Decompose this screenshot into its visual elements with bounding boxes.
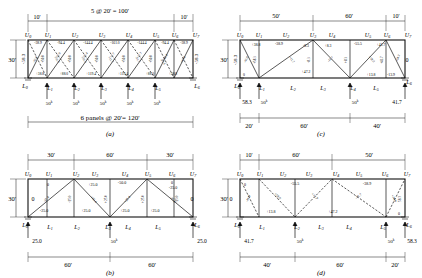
- svg-text:L4: L4: [345, 224, 351, 231]
- svg-text:+25.0: +25.0: [104, 195, 108, 203]
- panel-d-drawing: 10' 60' 50' 30' 40' 60' 20' U0 U1 U2 U3 …: [211, 139, 422, 278]
- svg-text:U0: U0: [25, 32, 31, 39]
- svg-text:+25.0: +25.0: [150, 208, 159, 213]
- zero-right-c: 0: [406, 57, 409, 63]
- svg-text:+59.0: +59.0: [274, 192, 283, 201]
- svg-text:L0: L0: [21, 222, 27, 229]
- zero-left-d: 0: [230, 196, 233, 202]
- svg-text:+88.0: +88.0: [146, 72, 155, 76]
- svg-text:+8.3: +8.3: [325, 44, 332, 48]
- dim-bot-b: 60': [300, 122, 308, 129]
- reaction-left-c: 58.3: [242, 99, 252, 105]
- svg-text:L2: L2: [293, 224, 299, 231]
- svg-text:-11.7: -11.7: [327, 55, 335, 63]
- svg-text:-38.9: -38.9: [275, 42, 283, 46]
- svg-text:U7: U7: [404, 171, 411, 178]
- svg-text:U1: U1: [45, 32, 51, 39]
- svg-text:-25.0: -25.0: [175, 195, 179, 202]
- svg-text:50k: 50k: [46, 100, 53, 106]
- svg-text:L6: L6: [193, 222, 199, 229]
- dim-b-a: 30': [47, 151, 55, 158]
- reaction-right-d: 58.3: [407, 238, 417, 244]
- svg-text:U6: U6: [172, 32, 178, 39]
- svg-text:+58.3: +58.3: [253, 56, 257, 64]
- dim-bot-d-c: 20': [391, 261, 399, 268]
- panel-d: 10' 60' 50' 30' 40' 60' 20' U0 U1 U2 U3 …: [211, 139, 422, 278]
- joint-labels-bottom: L0 L1 L2 L3 L4 L5 L6: [21, 83, 199, 92]
- svg-text:50k: 50k: [100, 100, 107, 106]
- svg-text:U4: U4: [122, 171, 128, 178]
- svg-text:-25.0: -25.0: [68, 195, 72, 202]
- member-end-left: -58.3: [21, 53, 26, 64]
- svg-text:U5: U5: [356, 171, 362, 178]
- joint-labels-top-b: U0 U1 U2 U3 U4 U5 U6 U7: [25, 171, 197, 178]
- svg-text:U7: U7: [405, 32, 412, 39]
- svg-text:+8.3: +8.3: [344, 57, 348, 63]
- svg-text:+50.0: +50.0: [122, 55, 126, 63]
- svg-text:-144.4: -144.4: [83, 41, 92, 45]
- svg-text:-38.9: -38.9: [363, 181, 371, 186]
- svg-text:U2: U2: [72, 32, 78, 39]
- member-end-right: -58.3: [194, 53, 199, 64]
- panel-a-caption: (a): [106, 130, 115, 138]
- svg-text:-161.0: -161.0: [110, 41, 119, 45]
- dim-bot-d-a: 40': [263, 261, 271, 268]
- svg-text:L6: L6: [193, 83, 199, 90]
- reaction-left-d: 41.7: [244, 238, 254, 244]
- svg-text:U3: U3: [92, 171, 98, 178]
- svg-text:U5: U5: [145, 171, 151, 178]
- svg-text:+65.0: +65.0: [180, 55, 187, 64]
- svg-text:+50.0: +50.0: [68, 55, 72, 63]
- svg-text:50k: 50k: [388, 238, 395, 244]
- dim-bot-d-b: 60': [336, 261, 344, 268]
- load-labels-d: 50k 50k: [297, 238, 395, 244]
- svg-text:+25.0: +25.0: [81, 208, 90, 213]
- svg-text:-58.3: -58.3: [395, 53, 401, 61]
- forces-d: 0 -55.5 -38.9 +13.8 +47.2: [244, 181, 371, 214]
- load-labels-c: 50k 50k: [261, 99, 359, 105]
- dim-b-c: 30': [166, 151, 174, 158]
- zero-left-b: 0: [32, 196, 35, 202]
- svg-text:0: 0: [244, 182, 246, 187]
- svg-text:50k: 50k: [154, 100, 161, 106]
- svg-text:50k: 50k: [352, 99, 359, 105]
- svg-text:L5: L5: [154, 224, 160, 231]
- svg-text:-55.5: -55.5: [291, 181, 299, 186]
- reaction-right-c: 41.7: [392, 99, 402, 105]
- svg-text:-144.4: -144.4: [137, 41, 146, 45]
- svg-text:L1: L1: [258, 224, 264, 231]
- svg-text:-11.7: -11.7: [354, 192, 362, 199]
- zero-right-b: 0: [191, 196, 194, 202]
- svg-text:+41.7: +41.7: [377, 43, 386, 47]
- svg-text:L4: L4: [124, 224, 130, 231]
- svg-text:L2: L2: [73, 224, 79, 231]
- dim-b: 60': [345, 12, 353, 19]
- svg-text:U6: U6: [382, 171, 388, 178]
- panel-b-caption: (b): [106, 269, 115, 277]
- svg-text:58.3: 58.3: [398, 196, 402, 202]
- dim-bot-a: 20': [245, 122, 253, 129]
- svg-text:-8.3: -8.3: [307, 57, 311, 62]
- svg-text:U0: U0: [237, 171, 243, 178]
- diagonal-forces: -65.0 -55.9 -35.4 -11.7 +11.7 +35.4 +65.…: [32, 51, 187, 66]
- dim-d-c: 50': [365, 151, 373, 158]
- svg-text:-50.0: -50.0: [118, 180, 126, 185]
- svg-text:0: 0: [243, 73, 245, 77]
- svg-text:+50.0: +50.0: [149, 55, 153, 63]
- svg-text:-13.9: -13.9: [387, 73, 395, 77]
- dim-span: 5 @ 20' = 100': [91, 7, 129, 14]
- svg-text:U4: U4: [329, 32, 335, 39]
- svg-text:+25.0: +25.0: [88, 182, 97, 187]
- dim-height: 30': [8, 56, 16, 63]
- panel-a: 10' 5 @ 20' = 100' 10' 30' 6 panels @ 20…: [0, 0, 211, 139]
- panel-b: 30' 60' 30' 30' 60' 60' U0 U1 U2 U3 U4 U…: [0, 139, 211, 278]
- forces-b: 0 +25.0 -50.0 0 -25.0 -25.0 +25.0 +25.0 …: [40, 180, 177, 213]
- svg-text:U3: U3: [306, 171, 312, 178]
- svg-text:U2: U2: [283, 32, 289, 39]
- svg-text:-25.0: -25.0: [40, 208, 48, 213]
- reaction-right-b: 25.0: [197, 238, 207, 244]
- svg-text:-55.5: -55.5: [354, 42, 362, 46]
- svg-text:L3: L3: [317, 224, 323, 231]
- dim-d-b: 60': [292, 151, 300, 158]
- diag-forces-c: -65.0 +11.7 -11.7 +59.0 +58.3 -8.3 +8.3 …: [243, 53, 401, 63]
